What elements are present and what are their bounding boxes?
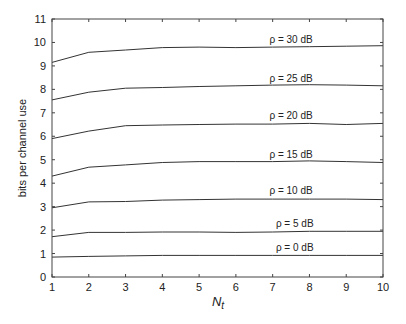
x-tick-label: 6 [233,281,239,293]
y-axis-label: bits per channel use [16,99,28,197]
series-line [52,46,383,63]
x-tick-label: 8 [306,281,312,293]
y-tick-label: 7 [40,107,46,119]
y-tick-label: 10 [34,36,46,48]
y-tick-label: 11 [35,13,46,25]
x-axis-label: Nt [212,294,225,311]
x-tick-label: 4 [159,281,165,293]
y-tick-label: 0 [40,271,46,283]
x-tick-label: 7 [270,281,276,293]
x-tick-label: 2 [86,281,92,293]
axes: 1234567891001234567891011 [34,13,389,293]
line-chart: ρ = 30 dBρ = 25 dBρ = 20 dBρ = 15 dBρ = … [0,0,406,324]
y-tick-label: 6 [40,130,46,142]
x-tick-label: 5 [196,281,202,293]
y-tick-label: 5 [40,154,46,166]
series-line [52,255,383,257]
x-tick-label: 3 [122,281,128,293]
y-tick-label: 3 [40,201,46,213]
series-label: ρ = 15 dB [269,149,313,160]
series-label: ρ = 10 dB [269,185,313,196]
series-layer [52,46,383,257]
plot-frame [52,19,383,277]
series-label: ρ = 20 dB [269,110,313,121]
x-tick-label: 1 [49,281,55,293]
series-line [52,85,383,100]
y-tick-label: 1 [40,248,46,260]
series-line [52,199,383,208]
y-tick-label: 8 [40,83,46,95]
series-label: ρ = 25 dB [269,73,313,84]
x-tick-label: 9 [343,281,349,293]
series-line [52,231,383,236]
series-line [52,123,383,138]
y-tick-label: 2 [40,224,46,236]
series-label: ρ = 0 dB [276,242,314,253]
y-tick-label: 4 [40,177,46,189]
x-tick-label: 10 [377,281,389,293]
series-label: ρ = 30 dB [269,34,313,45]
y-tick-label: 9 [40,60,46,72]
series-line [52,161,383,176]
series-label: ρ = 5 dB [276,218,314,229]
series-labels: ρ = 30 dBρ = 25 dBρ = 20 dBρ = 15 dBρ = … [269,34,313,253]
